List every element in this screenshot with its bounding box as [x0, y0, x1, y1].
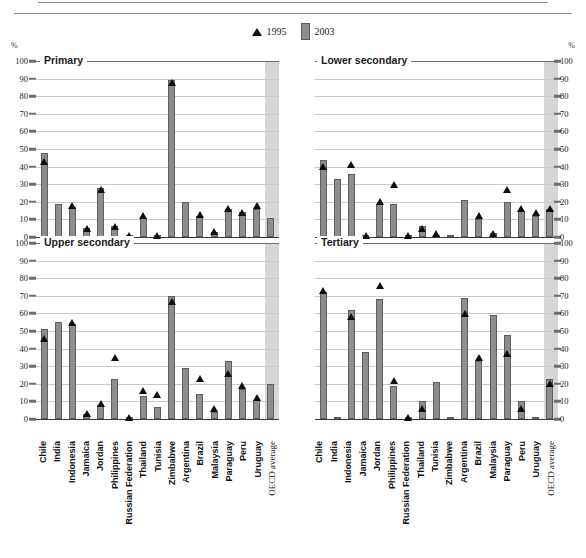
bar-group[interactable]	[330, 61, 344, 237]
bar-group[interactable]	[221, 243, 235, 419]
bar-group[interactable]	[514, 243, 528, 419]
bar-2003[interactable]	[253, 209, 260, 237]
bar-2003[interactable]	[546, 209, 553, 237]
bar-group[interactable]	[429, 61, 443, 237]
bar-2003[interactable]	[532, 417, 539, 419]
bar-2003[interactable]	[447, 417, 454, 419]
bar-group[interactable]	[472, 61, 486, 237]
bar-group[interactable]	[415, 61, 429, 237]
bar-group[interactable]	[316, 61, 330, 237]
bar-group[interactable]	[359, 61, 373, 237]
bar-group[interactable]	[250, 243, 264, 419]
bar-group[interactable]	[429, 243, 443, 419]
bar-group[interactable]	[373, 61, 387, 237]
bar-2003[interactable]	[182, 202, 189, 237]
bar-group[interactable]	[387, 243, 401, 419]
bar-2003[interactable]	[490, 315, 497, 419]
bar-group[interactable]	[500, 243, 514, 419]
bar-group[interactable]	[94, 243, 108, 419]
bar-group[interactable]	[65, 243, 79, 419]
bar-group[interactable]	[444, 243, 458, 419]
bar-2003[interactable]	[504, 335, 511, 419]
bar-2003[interactable]	[362, 352, 369, 419]
bar-2003[interactable]	[196, 216, 203, 237]
bar-2003[interactable]	[267, 218, 274, 237]
bar-2003[interactable]	[97, 188, 104, 237]
bar-2003[interactable]	[348, 174, 355, 237]
bar-2003[interactable]	[376, 299, 383, 419]
bar-group[interactable]	[514, 61, 528, 237]
bar-group[interactable]	[108, 61, 122, 237]
bar-group[interactable]	[529, 61, 543, 237]
bar-group[interactable]	[65, 61, 79, 237]
bar-group[interactable]	[165, 243, 179, 419]
bar-group[interactable]	[415, 243, 429, 419]
bar-2003[interactable]	[390, 386, 397, 419]
bar-group[interactable]	[221, 61, 235, 237]
bar-group[interactable]	[264, 243, 278, 419]
bar-group[interactable]	[51, 61, 65, 237]
bar-group[interactable]	[264, 61, 278, 237]
bar-group[interactable]	[80, 243, 94, 419]
bar-group[interactable]	[165, 61, 179, 237]
bar-group[interactable]	[51, 243, 65, 419]
bar-2003[interactable]	[140, 396, 147, 419]
bar-group[interactable]	[344, 61, 358, 237]
bar-2003[interactable]	[461, 200, 468, 237]
bar-group[interactable]	[401, 243, 415, 419]
bar-group[interactable]	[37, 243, 51, 419]
bar-group[interactable]	[359, 243, 373, 419]
bar-group[interactable]	[179, 61, 193, 237]
bar-group[interactable]	[387, 61, 401, 237]
bar-2003[interactable]	[196, 394, 203, 419]
bar-2003[interactable]	[168, 296, 175, 419]
bar-group[interactable]	[150, 61, 164, 237]
bar-2003[interactable]	[239, 212, 246, 237]
bar-group[interactable]	[373, 243, 387, 419]
bar-2003[interactable]	[390, 204, 397, 237]
bar-group[interactable]	[444, 61, 458, 237]
bar-2003[interactable]	[334, 417, 341, 419]
bar-group[interactable]	[529, 243, 543, 419]
bar-group[interactable]	[122, 243, 136, 419]
bar-2003[interactable]	[182, 368, 189, 419]
bar-2003[interactable]	[320, 160, 327, 237]
bar-2003[interactable]	[225, 209, 232, 237]
bar-group[interactable]	[458, 243, 472, 419]
bar-2003[interactable]	[320, 292, 327, 419]
bar-2003[interactable]	[532, 216, 539, 237]
bar-group[interactable]	[122, 61, 136, 237]
bar-2003[interactable]	[433, 382, 440, 419]
bar-2003[interactable]	[211, 412, 218, 419]
bar-group[interactable]	[108, 243, 122, 419]
bar-group[interactable]	[136, 61, 150, 237]
bar-group[interactable]	[330, 243, 344, 419]
bar-2003[interactable]	[41, 153, 48, 237]
bar-2003[interactable]	[55, 322, 62, 419]
bar-2003[interactable]	[69, 324, 76, 419]
bar-2003[interactable]	[97, 405, 104, 419]
bar-2003[interactable]	[239, 389, 246, 419]
bar-2003[interactable]	[154, 407, 161, 419]
bar-group[interactable]	[401, 61, 415, 237]
bar-2003[interactable]	[334, 179, 341, 237]
bar-group[interactable]	[136, 243, 150, 419]
bar-group[interactable]	[193, 61, 207, 237]
bar-group[interactable]	[207, 61, 221, 237]
bar-group[interactable]	[94, 61, 108, 237]
bar-group[interactable]	[486, 243, 500, 419]
bar-2003[interactable]	[41, 329, 48, 419]
bar-group[interactable]	[250, 61, 264, 237]
bar-group[interactable]	[486, 61, 500, 237]
bar-group[interactable]	[235, 61, 249, 237]
bar-2003[interactable]	[253, 400, 260, 419]
bar-2003[interactable]	[55, 204, 62, 237]
bar-group[interactable]	[207, 243, 221, 419]
bar-2003[interactable]	[475, 361, 482, 419]
bar-2003[interactable]	[475, 219, 482, 237]
bar-group[interactable]	[235, 243, 249, 419]
bar-2003[interactable]	[518, 211, 525, 237]
bar-2003[interactable]	[140, 218, 147, 237]
bar-group[interactable]	[193, 243, 207, 419]
bar-group[interactable]	[472, 243, 486, 419]
